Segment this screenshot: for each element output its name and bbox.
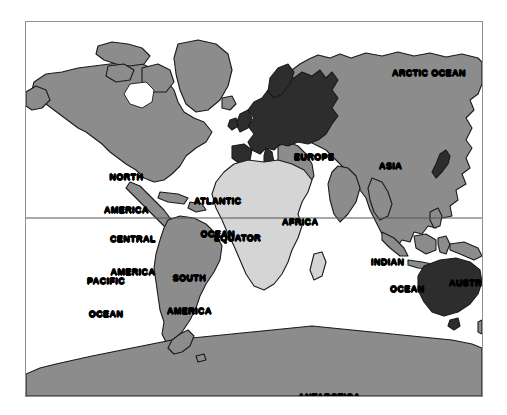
map-frame: NORTH AMERICA CENTRAL AMERICA SOUTH AMER… xyxy=(25,21,483,397)
island-new-zealand xyxy=(478,320,482,334)
world-map-figure: NORTH AMERICA CENTRAL AMERICA SOUTH AMER… xyxy=(0,0,507,415)
island-south-georgia xyxy=(196,354,206,362)
map-canvas xyxy=(26,22,482,396)
